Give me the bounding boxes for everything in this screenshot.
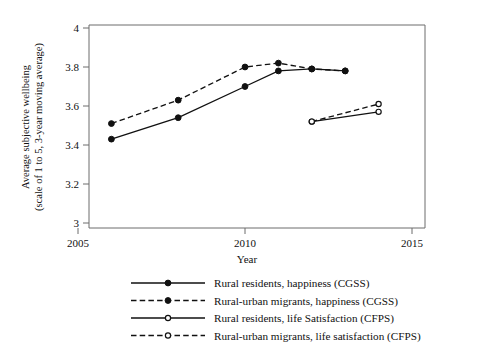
data-point <box>376 109 381 114</box>
legend-label: Rural-urban migrants, happiness (CGSS) <box>214 295 398 308</box>
legend-marker <box>165 298 171 304</box>
legend-label: Rural residents, happiness (CGSS) <box>214 277 370 290</box>
data-point <box>276 68 282 74</box>
x-tick-label: 2015 <box>401 237 424 249</box>
y-tick-label: 3 <box>74 217 80 229</box>
data-point <box>175 97 181 103</box>
data-point <box>376 101 381 106</box>
wellbeing-line-chart: 33.23.43.63.84 200520102015 Year Average… <box>0 0 479 351</box>
legend-label: Rural-urban migrants, life satisfaction … <box>214 330 421 343</box>
data-point <box>242 84 248 90</box>
x-tick-label: 2005 <box>67 237 90 249</box>
legend-marker <box>165 333 170 338</box>
data-point <box>242 64 248 70</box>
y-tick-label: 3.4 <box>65 139 79 151</box>
y-tick-label: 3.2 <box>65 178 79 190</box>
y-tick-label: 4 <box>74 22 80 34</box>
legend-label: Rural residents, life Satisfaction (CFPS… <box>214 312 394 325</box>
data-point <box>342 68 348 74</box>
data-point <box>109 136 115 142</box>
y-tick-label: 3.8 <box>65 61 79 73</box>
legend-marker <box>165 315 170 320</box>
data-point <box>175 115 181 121</box>
data-point <box>276 60 282 66</box>
x-axis-title: Year <box>237 253 258 265</box>
data-point <box>309 119 314 124</box>
data-point <box>109 121 115 127</box>
y-axis-title-line1: Average subjective wellbeing <box>20 64 31 189</box>
data-point <box>309 66 315 72</box>
legend-marker <box>165 280 171 286</box>
chart-figure: 33.23.43.63.84 200520102015 Year Average… <box>0 0 479 351</box>
y-tick-label: 3.6 <box>65 100 79 112</box>
x-tick-label: 2010 <box>234 237 257 249</box>
y-axis-title-line2: (scale of 1 to 5, 3-year moving average) <box>33 43 45 211</box>
